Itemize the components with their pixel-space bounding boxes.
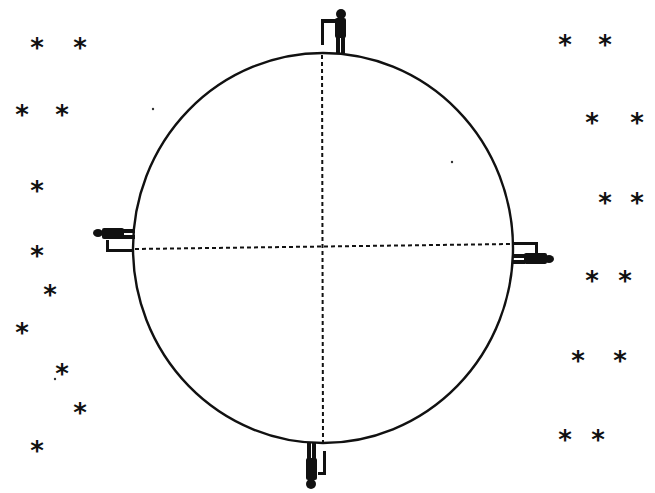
- star-icon: *: [585, 268, 599, 294]
- star-icon: *: [558, 427, 572, 453]
- diagram-canvas: [0, 0, 655, 493]
- star-icon: *: [585, 110, 599, 136]
- star-icon: *: [30, 35, 44, 61]
- person-top-icon: [321, 9, 346, 53]
- star-icon: *: [618, 268, 632, 294]
- star-icon: *: [558, 32, 572, 58]
- star-icon: *: [30, 438, 44, 464]
- star-icon: *: [55, 102, 69, 128]
- star-icon: *: [598, 32, 612, 58]
- person-bottom-icon: [306, 443, 326, 489]
- speck: [152, 108, 154, 110]
- star-icon: *: [30, 243, 44, 269]
- star-icon: *: [73, 35, 87, 61]
- star-icon: *: [591, 427, 605, 453]
- star-icon: *: [73, 400, 87, 426]
- star-icon: *: [613, 348, 627, 374]
- star-icon: *: [43, 282, 57, 308]
- star-icon: *: [630, 110, 644, 136]
- star-icon: *: [55, 361, 69, 387]
- star-icon: *: [15, 320, 29, 346]
- person-right-icon: [512, 242, 554, 264]
- speck: [451, 161, 453, 163]
- star-icon: *: [630, 190, 644, 216]
- horizontal-dashed-axis: [135, 244, 512, 249]
- star-icon: *: [598, 190, 612, 216]
- star-icon: *: [571, 348, 585, 374]
- earth-diagram: ***********************: [0, 0, 655, 493]
- star-icon: *: [30, 178, 44, 204]
- person-left-icon: [93, 228, 135, 252]
- star-icon: *: [15, 102, 29, 128]
- vertical-dashed-axis: [322, 55, 323, 442]
